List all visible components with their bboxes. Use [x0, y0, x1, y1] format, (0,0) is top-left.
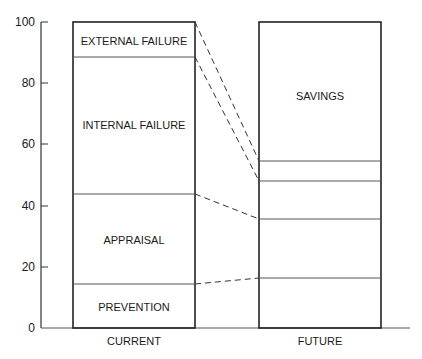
bar-future: SAVINGS — [259, 22, 381, 328]
y-tick-60: 60 — [22, 137, 36, 151]
bar-current: EXTERNAL FAILURE INTERNAL FAILURE APPRAI… — [73, 22, 195, 328]
connector-appraisal-prevention — [195, 278, 259, 284]
y-tick-40: 40 — [22, 199, 36, 213]
segment-label-internal-failure: INTERNAL FAILURE — [83, 119, 186, 131]
cost-of-quality-chart: 100 80 60 40 20 0 EXTERNAL FAILURE INTER… — [0, 0, 422, 359]
x-label-current: CURRENT — [107, 335, 161, 347]
y-axis: 100 80 60 40 20 0 — [15, 15, 48, 335]
y-tick-80: 80 — [22, 76, 36, 90]
segment-label-prevention: PREVENTION — [98, 301, 170, 313]
connector-internal-appraisal — [195, 194, 259, 219]
dashed-connectors — [195, 22, 259, 284]
segment-label-appraisal: APPRAISAL — [103, 234, 164, 246]
segment-label-savings: SAVINGS — [296, 90, 344, 102]
connector-external-internal — [195, 57, 259, 181]
y-tick-100: 100 — [15, 15, 35, 29]
y-tick-0: 0 — [28, 321, 35, 335]
connector-top — [195, 22, 259, 161]
x-label-future: FUTURE — [298, 335, 343, 347]
y-tick-20: 20 — [22, 260, 36, 274]
segment-label-external-failure: EXTERNAL FAILURE — [81, 35, 188, 47]
